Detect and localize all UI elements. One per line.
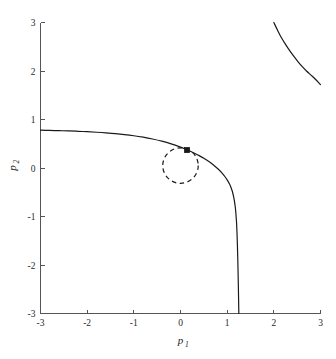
figure-canvas: -3-2-10123 -3-2-10123 p 1 p 2 — [0, 0, 336, 359]
x-axis-title-base: p — [177, 334, 184, 346]
x-tick-label-0: -3 — [37, 318, 45, 328]
y-tick-label-1: -2 — [28, 261, 36, 271]
curve-point-marker — [185, 148, 190, 153]
y-axis-title-base: p — [6, 165, 18, 172]
x-tick-label-4: 1 — [225, 318, 230, 328]
plot-background — [0, 0, 336, 359]
y-tick-label-6: 3 — [31, 18, 36, 28]
x-axis-title-subscript: 1 — [185, 340, 189, 349]
x-tick-label-3: 0 — [178, 318, 183, 328]
y-axis-title-subscript: 2 — [12, 160, 21, 164]
y-tick-label-0: -3 — [28, 309, 36, 319]
chart-plot: -3-2-10123 -3-2-10123 p 1 p 2 — [0, 0, 336, 359]
y-tick-label-3: 0 — [31, 164, 36, 174]
y-tick-label-4: 1 — [31, 115, 36, 125]
x-tick-label-6: 3 — [318, 318, 323, 328]
y-tick-label-5: 2 — [31, 67, 36, 77]
x-tick-label-5: 2 — [271, 318, 276, 328]
x-tick-label-2: -1 — [130, 318, 138, 328]
x-tick-label-1: -2 — [83, 318, 91, 328]
y-tick-label-2: -1 — [28, 212, 36, 222]
